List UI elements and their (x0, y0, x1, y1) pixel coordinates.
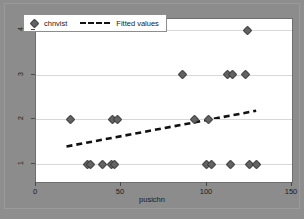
y-tick-mark (31, 118, 35, 119)
chart-screenshot: pusichn chnvist Fitted values 1234050100… (0, 0, 304, 219)
legend-entry-series: chnvist (31, 19, 67, 28)
y-tick-label: 3 (17, 68, 25, 80)
x-tick-mark (35, 182, 36, 186)
x-tick-mark (120, 182, 121, 186)
y-tick-label: 1 (17, 157, 25, 169)
legend-label-fitted: Fitted values (116, 19, 159, 28)
x-axis-title: pusichn (4, 195, 300, 204)
figure-frame: pusichn chnvist Fitted values 1234050100… (4, 3, 300, 209)
legend-label-series: chnvist (44, 19, 67, 28)
diamond-marker-icon (30, 18, 40, 28)
y-tick-label: 4 (17, 23, 25, 35)
y-tick-mark (31, 29, 35, 30)
y-tick-mark (31, 74, 35, 75)
x-tick-mark (206, 182, 207, 186)
x-tick-mark (291, 182, 292, 186)
fitted-values-line (36, 19, 292, 182)
x-tick-label: 150 (279, 187, 303, 196)
y-tick-label: 2 (17, 112, 25, 124)
plot-area (35, 18, 293, 183)
x-tick-label: 100 (194, 187, 218, 196)
gridline-y (36, 75, 292, 76)
x-tick-label: 0 (23, 187, 47, 196)
legend-entry-fitted: Fitted values (80, 19, 159, 28)
x-tick-label: 50 (108, 187, 132, 196)
chart-legend: chnvist Fitted values (23, 14, 167, 32)
dashed-line-icon (80, 22, 110, 24)
y-tick-mark (31, 163, 35, 164)
